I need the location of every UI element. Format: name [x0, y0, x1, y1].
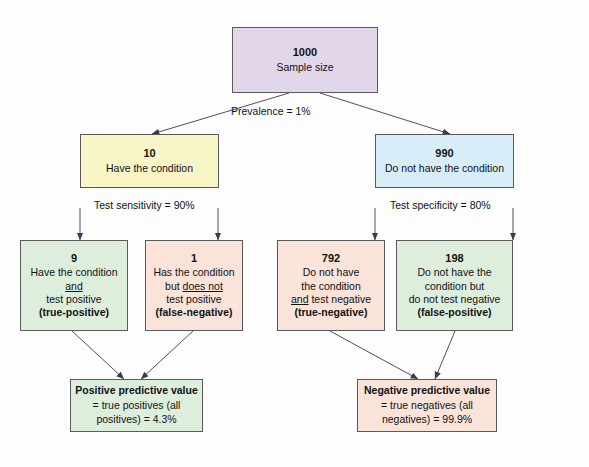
node-false-positive: 198 Do not have thecondition butdo not t…	[396, 240, 513, 331]
node-true-positive: 9 Have the conditionandtest positive(tru…	[20, 240, 128, 331]
outcome-line: Has the condition	[153, 266, 234, 279]
node-true-negative-text: Do not havethe conditionand test negativ…	[291, 266, 371, 319]
outcome-tag: (false-positive)	[409, 306, 501, 319]
outcome-line: Do not have	[291, 266, 371, 279]
outcome-line: test positive	[31, 293, 118, 306]
outcome-line: condition but	[409, 280, 501, 293]
outcome-line: Do not have the	[409, 266, 501, 279]
summary-line: = true negatives (all	[381, 399, 473, 413]
node-false-positive-text: Do not have thecondition butdo not test …	[409, 266, 501, 319]
outcome-line: test positive	[153, 293, 234, 306]
test-sensitivity-label: Test sensitivity = 90%	[94, 199, 195, 211]
summary-line: negatives) = 99.9%	[381, 413, 473, 427]
prevalence-label: Prevalence = 1%	[231, 105, 311, 117]
edge-false-negative-to-ppv	[141, 331, 193, 379]
outcome-tag: (true-negative)	[291, 306, 371, 319]
edge-true-positive-to-ppv	[72, 331, 124, 379]
outcome-tag: (false-negative)	[153, 306, 234, 319]
outcome-line: do not test negative	[409, 293, 501, 306]
node-true-negative: 792 Do not havethe conditionand test neg…	[277, 240, 385, 331]
edge-false-positive-to-npv	[435, 331, 455, 379]
node-have-condition: 10 Have the condition	[80, 134, 219, 188]
outcome-line: the condition	[291, 280, 371, 293]
npv-heading: Negative predictive value	[364, 384, 490, 398]
outcome-line: Have the condition	[31, 266, 118, 279]
node-true-negative-number: 792	[322, 252, 340, 266]
test-specificity-label: Test specificity = 80%	[390, 199, 491, 211]
node-no-condition-number: 990	[435, 147, 453, 161]
diagram-canvas: 1000 Sample size Prevalence = 1% 10 Have…	[0, 0, 589, 467]
edge-root-to-condition-no	[320, 93, 450, 134]
node-true-positive-text: Have the conditionandtest positive(true-…	[31, 266, 118, 319]
node-sample-size-label: Sample size	[276, 61, 333, 74]
node-false-negative: 1 Has the conditionbut does nottest posi…	[145, 240, 243, 331]
node-sample-size-number: 1000	[293, 46, 317, 60]
node-no-condition: 990 Do not have the condition	[375, 134, 514, 188]
node-no-condition-label: Do not have the condition	[385, 162, 504, 175]
node-sample-size: 1000 Sample size	[232, 27, 378, 93]
ppv-heading: Positive predictive value	[75, 384, 198, 398]
edge-true-negative-to-npv	[330, 331, 418, 379]
node-false-negative-text: Has the conditionbut does nottest positi…	[153, 266, 234, 319]
node-have-condition-label: Have the condition	[106, 162, 193, 175]
node-negative-predictive-value: Negative predictive value = true negativ…	[357, 379, 497, 432]
npv-body: = true negatives (allnegatives) = 99.9%	[381, 399, 473, 427]
outcome-tag: (true-positive)	[31, 306, 118, 319]
node-have-condition-number: 10	[143, 147, 155, 161]
node-false-negative-number: 1	[191, 252, 197, 266]
node-true-positive-number: 9	[71, 252, 77, 266]
summary-line: = true positives (all	[93, 399, 181, 413]
outcome-line: and	[31, 280, 118, 293]
ppv-body: = true positives (allpositives) = 4.3%	[93, 399, 181, 427]
node-false-positive-number: 198	[445, 252, 463, 266]
outcome-line: and test negative	[291, 293, 371, 306]
node-positive-predictive-value: Positive predictive value = true positiv…	[70, 379, 203, 432]
summary-line: positives) = 4.3%	[93, 413, 181, 427]
outcome-line: but does not	[153, 280, 234, 293]
